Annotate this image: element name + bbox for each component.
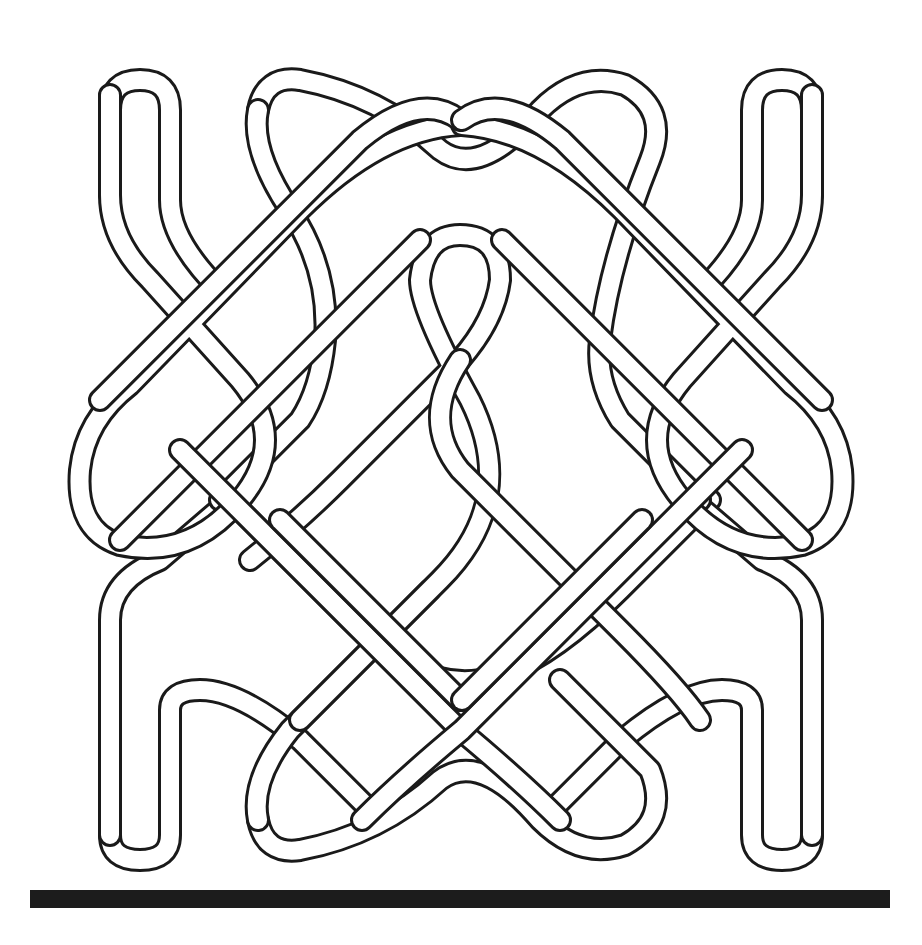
base-bar bbox=[30, 890, 890, 908]
celtic-knot-figure bbox=[0, 0, 922, 945]
